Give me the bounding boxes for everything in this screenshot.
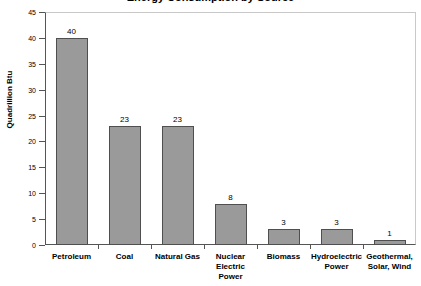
y-axis-tick (39, 141, 45, 142)
x-axis-tick (363, 245, 364, 249)
x-axis-label: Coal (98, 252, 151, 262)
x-axis-label-line: Petroleum (45, 252, 98, 262)
x-axis-label: Petroleum (45, 252, 98, 262)
x-axis-label: NuclearElectric Power (204, 252, 257, 282)
x-axis-label-line: Power (310, 262, 363, 272)
x-axis-label: Natural Gas (151, 252, 204, 262)
bar (321, 229, 353, 245)
bar-value-label: 8 (211, 193, 251, 202)
y-axis-tick (39, 116, 45, 117)
x-axis-label-line: Nuclear (204, 252, 257, 262)
y-axis-tick (39, 245, 45, 246)
x-axis-label-line: Natural Gas (151, 252, 204, 262)
bar (215, 204, 247, 245)
bar-chart: Energy Consumption by Source Quadrillion… (0, 0, 421, 286)
y-axis-tick (39, 219, 45, 220)
y-axis-label: 20 (0, 138, 36, 145)
x-axis-label-line: Solar, Wind (363, 262, 416, 272)
y-axis-label: 45 (0, 9, 36, 16)
x-axis-label-line: Hydroelectric (310, 252, 363, 262)
y-axis-label: 0 (0, 242, 36, 249)
x-axis-label-line: Coal (98, 252, 151, 262)
x-axis-label: Geothermal,Solar, Wind (363, 252, 416, 272)
y-axis-label: 5 (0, 216, 36, 223)
x-axis-label: HydroelectricPower (310, 252, 363, 272)
y-axis-title: Quadrillion Btu (5, 60, 14, 140)
y-axis-tick (39, 193, 45, 194)
bar (109, 126, 141, 245)
y-axis-label: 25 (0, 113, 36, 120)
y-axis-tick (39, 90, 45, 91)
y-axis-label: 30 (0, 87, 36, 94)
x-axis-tick (204, 245, 205, 249)
chart-title-clipped: Energy Consumption by Source (0, 0, 421, 7)
bar (162, 126, 194, 245)
bar-value-label: 1 (370, 229, 410, 238)
bar-value-label: 3 (317, 218, 357, 227)
bar (56, 38, 88, 245)
x-axis-label-line: Geothermal, (363, 252, 416, 262)
chart-title-text: Energy Consumption by Source (0, 0, 421, 4)
x-axis-label: Biomass (257, 252, 310, 262)
x-axis-tick (151, 245, 152, 249)
x-axis-label-line: Electric Power (204, 262, 257, 282)
y-axis-tick (39, 167, 45, 168)
x-axis-label-line: Biomass (257, 252, 310, 262)
y-axis-label: 10 (0, 190, 36, 197)
bar-value-label: 23 (105, 115, 145, 124)
x-axis-tick (98, 245, 99, 249)
bar-value-label: 40 (52, 27, 92, 36)
y-axis-label: 35 (0, 61, 36, 68)
bar-value-label: 23 (158, 115, 198, 124)
x-axis-tick (257, 245, 258, 249)
y-axis-tick (39, 38, 45, 39)
x-axis-tick (310, 245, 311, 249)
y-axis-label: 40 (0, 35, 36, 42)
bar-value-label: 3 (264, 218, 304, 227)
bar (268, 229, 300, 245)
y-axis-label: 15 (0, 164, 36, 171)
y-axis-tick (39, 64, 45, 65)
y-axis-tick (39, 12, 45, 13)
bar (374, 240, 406, 245)
